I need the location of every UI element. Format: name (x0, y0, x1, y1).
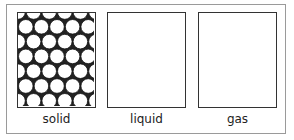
gas-label: gas (198, 112, 277, 126)
solid-particles (18, 13, 94, 106)
liquid-label: liquid (107, 112, 186, 126)
solid-panel (17, 12, 96, 108)
solid-label: solid (17, 112, 96, 126)
gas-panel (198, 12, 277, 108)
liquid-panel (107, 12, 186, 108)
